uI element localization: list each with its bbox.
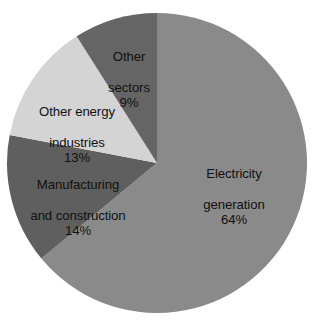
pie-slices-group	[7, 13, 307, 313]
pie-chart-canvas	[0, 0, 321, 322]
pie-chart-figure: Electricity generation 64% Manufacturing…	[0, 0, 321, 322]
